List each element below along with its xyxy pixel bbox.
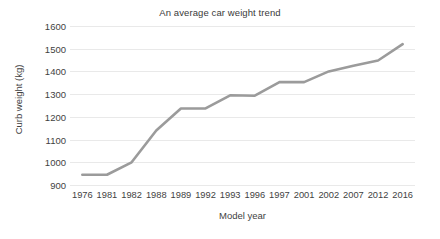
plot-area	[70, 26, 415, 185]
gridline-900	[70, 185, 415, 186]
y-axis-tick-labels: 9001000110012001300140015001600	[20, 26, 66, 185]
y-tick-label-1200: 1200	[20, 111, 66, 122]
x-tick-label-2001: 2001	[294, 190, 315, 200]
y-tick-label-1600: 1600	[20, 21, 66, 32]
x-tick-label-1989: 1989	[171, 190, 192, 200]
y-tick-label-1400: 1400	[20, 66, 66, 77]
x-axis-tick-labels: 1976198119821988198919921993199619972001…	[70, 190, 415, 204]
x-tick-label-2007: 2007	[343, 190, 364, 200]
x-tick-label-1996: 1996	[244, 190, 265, 200]
y-tick-label-1000: 1000	[20, 157, 66, 168]
x-tick-label-1997: 1997	[269, 190, 290, 200]
x-axis-title: Model year	[70, 210, 415, 221]
x-tick-label-1981: 1981	[97, 190, 118, 200]
y-tick-label-1100: 1100	[20, 134, 66, 145]
x-tick-label-1982: 1982	[121, 190, 142, 200]
x-tick-label-1992: 1992	[195, 190, 216, 200]
x-tick-label-1993: 1993	[220, 190, 241, 200]
chart-title: An average car weight trend	[0, 7, 440, 18]
y-tick-label-1300: 1300	[20, 89, 66, 100]
y-tick-label-900: 900	[20, 180, 66, 191]
x-tick-label-1988: 1988	[146, 190, 167, 200]
x-tick-label-2016: 2016	[392, 190, 413, 200]
chart-figure: An average car weight trend Curb weight …	[0, 0, 440, 239]
x-tick-label-2002: 2002	[318, 190, 339, 200]
x-tick-label-1976: 1976	[72, 190, 93, 200]
series-line-curb-weight	[82, 44, 402, 175]
line-series	[70, 26, 415, 185]
y-tick-label-1500: 1500	[20, 43, 66, 54]
x-tick-label-2012: 2012	[368, 190, 389, 200]
